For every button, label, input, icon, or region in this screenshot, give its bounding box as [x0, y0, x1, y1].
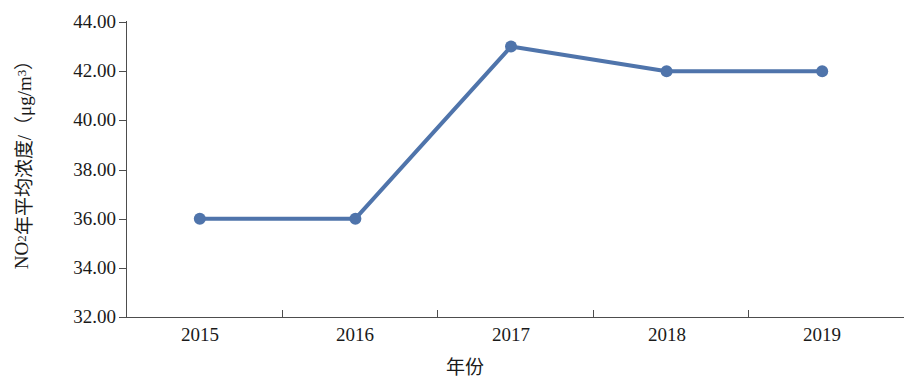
series-line: [200, 47, 822, 219]
data-point-marker: [661, 65, 673, 77]
data-point-marker: [194, 213, 206, 225]
data-point-marker: [349, 213, 361, 225]
x-axis-title: 年份: [0, 352, 904, 379]
data-point-marker: [505, 41, 517, 53]
line-chart: NO2年平均浓度/（μg/m3） 44.0042.0040.0038.0036.…: [0, 0, 904, 383]
data-point-marker: [816, 65, 828, 77]
data-series-layer: [0, 0, 904, 383]
x-axis-title-text: 年份: [446, 352, 484, 379]
